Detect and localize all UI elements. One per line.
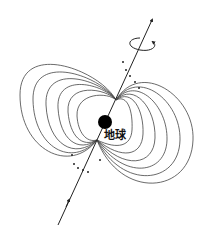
axis-arrow-icon: [66, 200, 69, 207]
earth-label: 地球: [104, 126, 125, 142]
rotation-arrow-icon: [130, 38, 155, 50]
magnetic-field-diagram: [0, 0, 212, 246]
